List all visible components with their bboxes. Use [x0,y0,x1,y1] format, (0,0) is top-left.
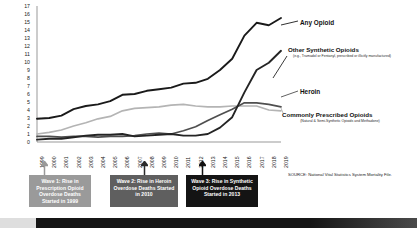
x-tick-label: 2004 [101,156,106,168]
y-tick-label: 15 [14,20,30,25]
y-tick-label: 14 [14,28,30,33]
y-axis-ticks: 17161514131211109876543210 [14,4,30,142]
series-label-heroin: Heroin [300,88,320,95]
y-tick-label: 7 [14,84,30,89]
source-note: SOURCE: National Vital Statistics System… [288,172,392,177]
bottom-bar-fill [36,218,417,228]
x-tick-label: 2003 [89,156,94,168]
x-tick-label: 2010 [174,156,179,168]
series-paths [37,18,281,140]
x-tick-label: 2005 [113,156,118,168]
leader-other-synth [273,56,287,78]
y-tick-label: 5 [14,100,30,105]
y-tick-label: 13 [14,36,30,41]
bottom-bar-left-segment [0,218,36,228]
chart-canvas: Deaths per 100,000 population 1716151413… [0,0,417,234]
x-tick-label: 2019 [284,156,289,168]
x-tick-label: 2001 [64,156,69,168]
x-tick-label: 2017 [260,156,265,168]
y-tick-label: 4 [14,108,30,113]
x-tick-label: 2018 [272,156,277,168]
x-tick-label: 2011 [186,157,191,168]
y-tick-label: 1 [14,132,30,137]
leader-heroin [281,91,298,97]
y-tick-label: 10 [14,60,30,65]
y-tick-label: 0 [14,140,30,145]
wave2-callout: Wave 2: Rise in Heroin Overdose Deaths S… [110,175,178,207]
x-tick-label: 2014 [223,156,228,168]
x-tick-label: 2000 [52,156,57,168]
leader-lines [273,21,298,113]
x-tick-label: 2013 [211,156,216,168]
x-tick-label: 2015 [235,156,240,168]
series-label-any-opioid: Any Opioid [300,19,334,26]
series-line-heroin [37,103,281,137]
y-tick-label: 12 [14,44,30,49]
series-label-commonly-prescribed-opioids: Commonly Prescribed Opioids [282,111,372,118]
series-sublabel-other-synthetic-opioids: (e.g., Tramadol or Fentanyl, prescribed … [292,54,392,58]
x-tick-label: 2016 [247,156,252,168]
y-tick-label: 11 [14,52,30,57]
leader-any-opioid [281,21,298,25]
x-tick-label: 2008 [150,156,155,168]
x-tick-label: 2002 [77,156,82,168]
y-tick-label: 16 [14,12,30,17]
y-tick-label: 9 [14,68,30,73]
series-label-other-synthetic-opioids: Other Synthetic Opioids [288,46,359,53]
series-sublabel-commonly-prescribed-opioids: (Natural & Semi-Synthetic Opioids and Me… [284,119,396,123]
y-tick-label: 17 [14,4,30,9]
x-axis-ticks: 1999200020012002200320042005200620072008… [38,144,282,170]
y-tick-label: 6 [14,92,30,97]
x-tick-label: 2009 [162,156,167,168]
y-tick-label: 8 [14,76,30,81]
axis-lines [37,6,281,142]
x-tick-label: 2006 [125,156,130,168]
wave3-callout: Wave 3: Rise in Synthetic Opioid Overdos… [186,175,258,207]
y-tick-label: 3 [14,116,30,121]
y-tick-label: 2 [14,124,30,129]
wave1-callout: Wave 1: Rise in Prescription Opioid Over… [29,175,91,207]
